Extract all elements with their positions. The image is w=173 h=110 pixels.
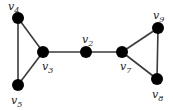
- node-v5: [12, 79, 24, 91]
- node-label-v4: v4: [8, 0, 19, 15]
- edge-v9-v8: [157, 28, 158, 79]
- node-label-v5: v5: [11, 94, 22, 109]
- node-label-v9: v9: [153, 9, 164, 24]
- node-v8: [151, 73, 163, 85]
- edge-v5-v3: [18, 52, 43, 85]
- node-v3: [37, 46, 49, 58]
- node-v7: [116, 46, 128, 58]
- graph-diagram: v4v5v3v2v7v9v8: [0, 0, 173, 110]
- graph-svg: v4v5v3v2v7v9v8: [0, 0, 173, 110]
- node-label-v7: v7: [120, 60, 132, 75]
- edge-v4-v3: [18, 18, 43, 52]
- node-label-v3: v3: [42, 60, 53, 75]
- edge-v7-v9: [122, 28, 158, 52]
- node-label-v8: v8: [152, 88, 163, 103]
- node-label-v2: v2: [82, 33, 93, 48]
